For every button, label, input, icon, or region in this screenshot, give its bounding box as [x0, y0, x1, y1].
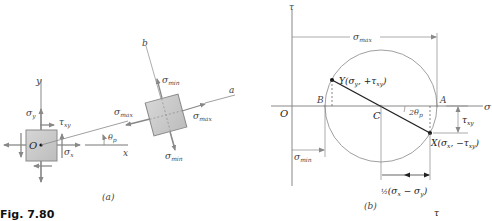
panel-b-label: (b)	[364, 201, 377, 211]
figure-canvas: y σy τxy σx O x a θp b	[0, 0, 492, 221]
point-y-label: Y(σy, +τxy)	[339, 76, 387, 88]
sigma-y-label: σy	[26, 108, 36, 120]
theta-p-label: θp	[108, 133, 117, 144]
sigma-min-top-label: σmin	[162, 75, 180, 86]
sigma-x-label: σx	[64, 147, 74, 158]
mohr-origin-label: O	[280, 108, 288, 119]
tau-axis-label: τ	[289, 2, 295, 12]
sigma-max-right-arrow	[182, 104, 205, 111]
tau-xy-label: τxy	[59, 117, 71, 129]
tau-xy-dim-label: τxy	[462, 115, 474, 127]
panel-a-label: (a)	[102, 192, 115, 202]
sigma-max-right-label: σmax	[193, 111, 212, 122]
sigma-max-left-label: σmax	[114, 107, 133, 118]
theta-p-arc	[103, 135, 104, 145]
half-diff-label: ½(σx − σy)	[381, 186, 428, 198]
point-a	[436, 105, 439, 108]
y-axis-label: y	[35, 75, 42, 86]
sigma-max-left-arrow	[126, 119, 150, 125]
point-b-label: B	[316, 95, 324, 105]
point-c-label: C	[373, 110, 381, 121]
sigma-axis-label: σ	[484, 101, 492, 112]
rotated-element-group	[145, 94, 187, 136]
two-theta-arc	[404, 106, 405, 112]
x-axis-label: x	[123, 148, 128, 158]
point-a-label: A	[439, 95, 447, 105]
panel-a: y σy τxy σx O x a θp b	[4, 38, 235, 202]
sigma-min-dim-label: σmin	[294, 152, 312, 163]
sigma-min-bottom-label: σmin	[165, 151, 183, 162]
point-x-label: X(σx, −τxy)	[430, 138, 479, 150]
origin-label: O	[29, 140, 37, 151]
panel-b: τ σ O σmax σmin B C A Y(σy, +τxy)	[271, 2, 492, 211]
point-b	[324, 105, 327, 108]
sigma-max-dim-label: σmax	[353, 32, 372, 43]
figure-caption: Fig. 7.80	[0, 208, 55, 221]
b-axis-label: b	[142, 38, 148, 48]
a-axis-outer	[205, 95, 235, 103]
sigma-min-bottom-arrow	[170, 132, 175, 150]
a-axis-label: a	[229, 85, 234, 95]
two-theta-label: 2θp	[408, 108, 423, 119]
stray-tau-label: τ	[434, 208, 440, 218]
